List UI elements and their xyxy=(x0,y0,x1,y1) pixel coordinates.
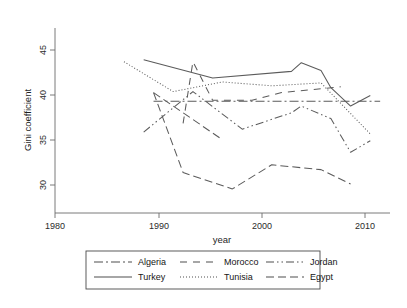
y-axis-tick-labels: 45 40 35 30 xyxy=(38,45,48,190)
x-axis-title: year xyxy=(213,234,231,245)
legend-label-morocco: Morocco xyxy=(224,257,259,267)
x-tick-label-2010: 2010 xyxy=(355,221,375,231)
series-line-jordan xyxy=(144,92,371,153)
chart-figure: 45 40 35 30 Gini coefficient 1980 1990 2… xyxy=(0,0,407,308)
legend-label-turkey: Turkey xyxy=(138,272,166,282)
y-tick-label-45: 45 xyxy=(38,45,48,55)
x-axis-tick-labels: 1980 1990 2000 2010 xyxy=(45,221,375,231)
x-tick-label-1990: 1990 xyxy=(149,221,169,231)
series-line-egypt xyxy=(154,93,351,189)
series-line-morocco xyxy=(183,62,341,124)
legend-box xyxy=(86,251,320,289)
legend-label-jordan: Jordan xyxy=(310,257,338,267)
y-tick-label-40: 40 xyxy=(38,90,48,100)
x-tick-label-1980: 1980 xyxy=(45,221,65,231)
y-axis-ticks xyxy=(50,50,55,185)
legend-label-algeria: Algeria xyxy=(138,257,166,267)
x-tick-label-2000: 2000 xyxy=(252,221,272,231)
legend-label-egypt: Egypt xyxy=(310,272,334,282)
y-axis-title: Gini coefficient xyxy=(22,89,33,151)
legend-label-tunisia: Tunisia xyxy=(224,272,253,282)
gini-coefficient-line-chart: 45 40 35 30 Gini coefficient 1980 1990 2… xyxy=(0,0,407,308)
y-tick-label-30: 30 xyxy=(38,180,48,190)
x-axis-ticks xyxy=(55,213,365,218)
y-tick-label-35: 35 xyxy=(38,135,48,145)
series-lines xyxy=(124,60,380,189)
